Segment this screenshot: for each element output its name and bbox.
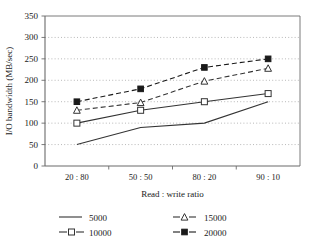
x-tick-label-0: 20 : 80 <box>65 172 89 182</box>
y-tick-label-250: 250 <box>25 54 39 64</box>
legend-label-10000: 10000 <box>89 228 112 238</box>
legend-label-5000: 5000 <box>89 213 108 223</box>
legend-label-15000: 15000 <box>204 213 227 223</box>
series-20000-marker-1 <box>138 86 144 92</box>
y-tick-label-150: 150 <box>25 97 39 107</box>
y-tick-label-50: 50 <box>29 140 39 150</box>
legend-item-5000[interactable]: 5000 <box>59 213 108 223</box>
chart-legend: 5000 15000 10000 20000 <box>59 213 227 238</box>
x-axis-tick-labels: 20 : 80 50 : 50 80 : 20 90 : 10 <box>65 172 280 182</box>
io-bandwidth-line-chart: 0 50 100 150 200 250 300 350 20 : 80 50 … <box>0 0 321 244</box>
x-tick-label-1: 50 : 50 <box>129 172 153 182</box>
series-10000-marker-1 <box>138 107 144 113</box>
legend-marker-10000 <box>69 229 75 235</box>
series-10000-marker-0 <box>74 120 80 126</box>
series-10000-marker-3 <box>265 91 271 97</box>
x-tick-label-2: 80 : 20 <box>193 172 217 182</box>
chart-figure: 0 50 100 150 200 250 300 350 20 : 80 50 … <box>0 0 321 244</box>
y-tick-label-100: 100 <box>25 118 39 128</box>
y-axis-tick-labels: 0 50 100 150 200 250 300 350 <box>25 11 39 171</box>
series-10000-marker-2 <box>201 99 207 105</box>
y-tick-label-300: 300 <box>25 32 39 42</box>
legend-item-10000[interactable]: 10000 <box>59 228 112 238</box>
series-20000-marker-3 <box>265 56 271 62</box>
series-20000-marker-0 <box>74 99 80 105</box>
y-tick-label-0: 0 <box>34 161 39 171</box>
plot-background <box>45 16 300 166</box>
x-axis-title: Read : write ratio <box>141 189 204 199</box>
x-tick-label-3: 90 : 10 <box>256 172 280 182</box>
y-tick-label-350: 350 <box>25 11 39 21</box>
legend-label-20000: 20000 <box>204 228 227 238</box>
legend-item-20000[interactable]: 20000 <box>173 228 227 238</box>
y-tick-label-200: 200 <box>25 75 39 85</box>
legend-marker-20000 <box>182 229 188 235</box>
series-20000-marker-2 <box>202 65 208 71</box>
legend-marker-15000 <box>181 214 188 221</box>
legend-item-15000[interactable]: 15000 <box>173 213 227 223</box>
y-axis-title: I/O bandwidth (MB/sec) <box>4 47 14 135</box>
